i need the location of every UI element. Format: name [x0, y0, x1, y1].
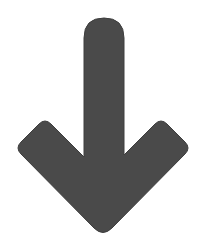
arrow-down-svg — [0, 0, 206, 245]
arrow-down-icon — [0, 0, 206, 245]
